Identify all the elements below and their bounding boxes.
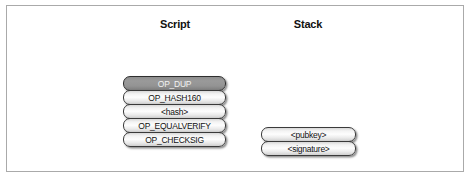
script-item-op-checksig: OP_CHECKSIG bbox=[123, 132, 226, 147]
stack-item-signature: <signature> bbox=[261, 141, 356, 156]
script-item-hash: <hash> bbox=[123, 104, 226, 119]
figure-frame: Script Stack OP_DUP OP_HASH160 <hash> OP… bbox=[6, 5, 464, 172]
script-item-op-equalverify: OP_EQUALVERIFY bbox=[123, 118, 226, 133]
script-item-op-hash160: OP_HASH160 bbox=[123, 90, 226, 105]
script-stack-column: OP_DUP OP_HASH160 <hash> OP_EQUALVERIFY … bbox=[123, 76, 226, 147]
stack-item-pubkey: <pubkey> bbox=[261, 127, 356, 142]
stack-column: <pubkey> <signature> bbox=[261, 127, 356, 156]
script-column-header: Script bbox=[160, 18, 190, 30]
script-item-op-dup: OP_DUP bbox=[123, 76, 226, 91]
stack-column-header: Stack bbox=[294, 18, 322, 30]
